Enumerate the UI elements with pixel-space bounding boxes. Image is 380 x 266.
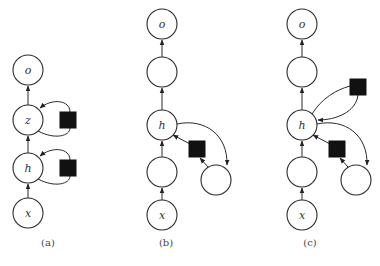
delay-square-icon xyxy=(60,160,76,176)
panel-caption: (a) xyxy=(41,237,55,248)
panel-caption: (b) xyxy=(159,237,173,248)
edge-side-to-delay xyxy=(340,158,348,167)
node-label: h xyxy=(24,162,31,175)
node-label: x xyxy=(159,209,166,222)
edge-delay-to-h xyxy=(173,135,190,144)
edge-delay-to-z xyxy=(40,102,70,112)
panel-b: o h x (b) xyxy=(147,9,231,248)
node-label: o xyxy=(159,18,166,31)
node-hidden-lower xyxy=(287,157,317,187)
node-label: x xyxy=(299,209,306,222)
edge-h-to-delay xyxy=(38,176,70,184)
panel-c: o h x (c) xyxy=(287,9,371,248)
panel-caption: (c) xyxy=(303,237,317,248)
node-hidden-lower xyxy=(147,157,177,187)
node-side xyxy=(341,165,371,195)
edge-delay-to-h xyxy=(313,135,330,144)
node-label: o xyxy=(299,18,306,31)
rnn-architecture-diagram: o z h x (a) o h x (b) xyxy=(0,0,380,266)
delay-square-icon xyxy=(60,112,76,128)
node-hidden-upper xyxy=(287,57,317,87)
edge-delay-top-to-h xyxy=(318,95,358,120)
edge-delay-to-h xyxy=(40,150,70,160)
node-label: o xyxy=(25,64,32,77)
edge-side-to-delay xyxy=(200,158,208,167)
edge-z-to-delay xyxy=(38,128,70,136)
node-hidden-upper xyxy=(147,57,177,87)
panel-a: o z h x (a) xyxy=(13,55,76,248)
delay-square-icon xyxy=(189,141,205,157)
node-side xyxy=(201,165,231,195)
edge-h-to-delay-top xyxy=(312,86,350,114)
node-label: h xyxy=(298,119,305,132)
node-label: z xyxy=(24,114,31,127)
delay-square-icon xyxy=(350,79,366,95)
delay-square-icon xyxy=(329,141,345,157)
node-label: h xyxy=(158,119,165,132)
node-label: x xyxy=(25,207,32,220)
